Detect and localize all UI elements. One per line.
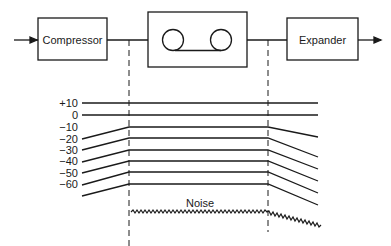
expander-label: Expander — [299, 34, 346, 46]
level-labels: +10 0 −10 −20 −30 −40 −50 −60 — [59, 97, 78, 190]
expander-block: Expander — [287, 18, 358, 60]
noise-trace — [131, 210, 321, 227]
tape-recorder-block — [148, 12, 247, 67]
level-label: +10 — [59, 97, 78, 109]
compressor-block: Compressor — [38, 18, 107, 60]
level-label: −10 — [59, 121, 78, 133]
level-label: 0 — [72, 109, 78, 121]
input-arrow-icon — [14, 37, 38, 43]
compressor-label: Compressor — [43, 34, 103, 46]
output-arrow-icon — [358, 37, 381, 43]
compander-diagram: Compressor Expander +10 0 −10 −20 −30 −4… — [0, 0, 391, 246]
level-label: −60 — [59, 178, 78, 190]
cassette-icon — [163, 30, 232, 51]
level-label: −40 — [59, 155, 78, 167]
level-lines — [82, 103, 318, 205]
noise-label: Noise — [186, 197, 214, 209]
